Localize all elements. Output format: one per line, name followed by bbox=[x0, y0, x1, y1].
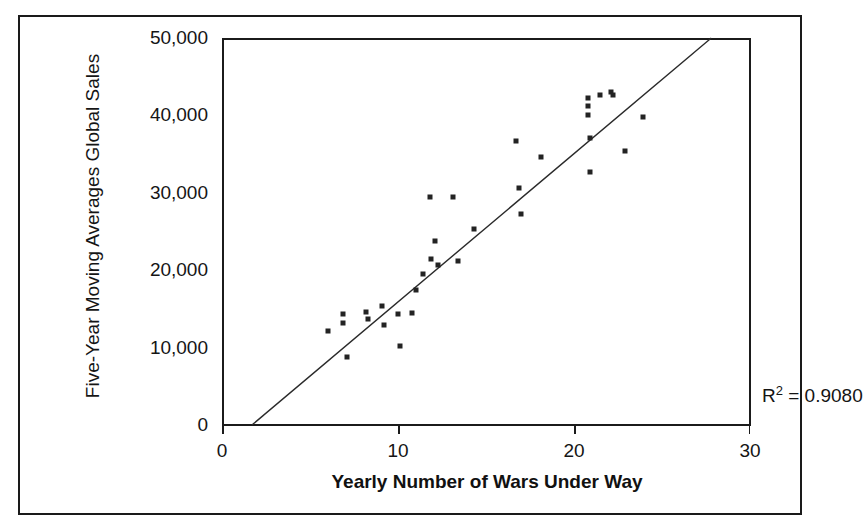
y-axis-line bbox=[222, 38, 224, 426]
y-axis-tick-labels: 010,00020,00030,00040,00050,000 bbox=[60, 38, 216, 426]
data-point bbox=[364, 309, 369, 314]
data-point bbox=[429, 257, 434, 262]
y-axis-tick-label: 20,000 bbox=[150, 259, 208, 281]
r-squared-prefix: R bbox=[762, 385, 776, 406]
plot-top-border bbox=[222, 38, 751, 40]
y-axis-tick-label: 50,000 bbox=[150, 27, 208, 49]
data-point bbox=[341, 312, 346, 317]
data-point bbox=[519, 212, 524, 217]
trendline bbox=[222, 38, 750, 426]
data-point bbox=[381, 323, 386, 328]
data-point bbox=[366, 316, 371, 321]
data-point bbox=[380, 303, 385, 308]
data-point bbox=[471, 227, 476, 232]
y-axis-tick-label: 10,000 bbox=[150, 337, 208, 359]
data-point bbox=[341, 320, 346, 325]
data-point bbox=[610, 92, 615, 97]
r-squared-annotation: R2 = 0.9080 bbox=[762, 383, 863, 407]
data-point bbox=[587, 135, 592, 140]
data-point bbox=[517, 186, 522, 191]
data-point bbox=[450, 195, 455, 200]
x-axis-tick-mark bbox=[222, 426, 224, 434]
data-point bbox=[410, 310, 415, 315]
data-point bbox=[427, 195, 432, 200]
x-axis-tick-label: 20 bbox=[563, 440, 584, 462]
data-point bbox=[344, 354, 349, 359]
x-axis-tick-label: 0 bbox=[217, 440, 228, 462]
data-point bbox=[436, 262, 441, 267]
data-point bbox=[586, 104, 591, 109]
y-axis-tick-label: 30,000 bbox=[150, 182, 208, 204]
x-axis-title: Yearly Number of Wars Under Way bbox=[222, 471, 752, 493]
x-axis-tick-labels: 0102030 bbox=[222, 426, 750, 456]
data-point bbox=[455, 258, 460, 263]
r-squared-suffix: = 0.9080 bbox=[783, 385, 863, 406]
data-point bbox=[640, 114, 645, 119]
x-axis-tick-label: 30 bbox=[739, 440, 760, 462]
data-point bbox=[413, 287, 418, 292]
data-point bbox=[432, 238, 437, 243]
data-point bbox=[586, 113, 591, 118]
x-axis-tick-mark bbox=[398, 426, 400, 434]
data-point bbox=[420, 272, 425, 277]
data-point bbox=[587, 169, 592, 174]
data-point bbox=[397, 344, 402, 349]
data-point bbox=[598, 93, 603, 98]
data-point bbox=[325, 328, 330, 333]
r-squared-exponent: 2 bbox=[776, 383, 783, 398]
x-axis-tick-mark bbox=[749, 426, 751, 434]
data-point bbox=[623, 149, 628, 154]
y-axis-tick-label: 0 bbox=[197, 414, 208, 436]
data-point bbox=[586, 96, 591, 101]
y-axis-tick-label: 40,000 bbox=[150, 104, 208, 126]
data-point bbox=[396, 311, 401, 316]
data-point bbox=[513, 138, 518, 143]
plot-area: R2 = 0.9080 bbox=[222, 38, 750, 425]
data-point bbox=[538, 155, 543, 160]
x-axis-tick-label: 10 bbox=[387, 440, 408, 462]
plot-right-border bbox=[749, 38, 751, 426]
x-axis-tick-mark bbox=[574, 426, 576, 434]
